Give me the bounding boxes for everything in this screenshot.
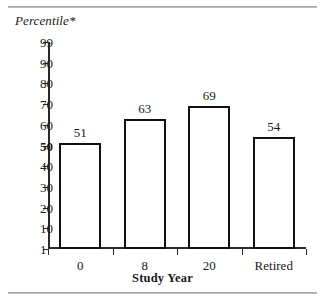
bar[interactable] bbox=[59, 143, 101, 249]
top-divider-rule bbox=[8, 6, 317, 8]
x-tick-mark bbox=[113, 249, 114, 255]
x-tick-mark bbox=[306, 249, 307, 255]
chart-figure: Percentile* 999080706050403020101 0820Re… bbox=[0, 0, 325, 305]
x-tick-mark bbox=[177, 249, 178, 255]
bar[interactable] bbox=[124, 119, 166, 249]
bar-value-label: 69 bbox=[203, 89, 216, 102]
x-tick-mark bbox=[242, 249, 243, 255]
bar[interactable] bbox=[188, 106, 230, 249]
x-axis-title: Study Year bbox=[0, 271, 325, 286]
x-tick-mark bbox=[48, 249, 49, 255]
bottom-divider-rule bbox=[8, 292, 317, 294]
bar-value-label: 63 bbox=[138, 102, 151, 115]
y-axis-title: Percentile* bbox=[15, 13, 76, 29]
bar-value-label: 51 bbox=[74, 126, 87, 139]
bar-value-label: 54 bbox=[267, 120, 280, 133]
bar[interactable] bbox=[253, 137, 295, 249]
plot-area: 999080706050403020101 0820Retired 516369… bbox=[48, 38, 306, 253]
